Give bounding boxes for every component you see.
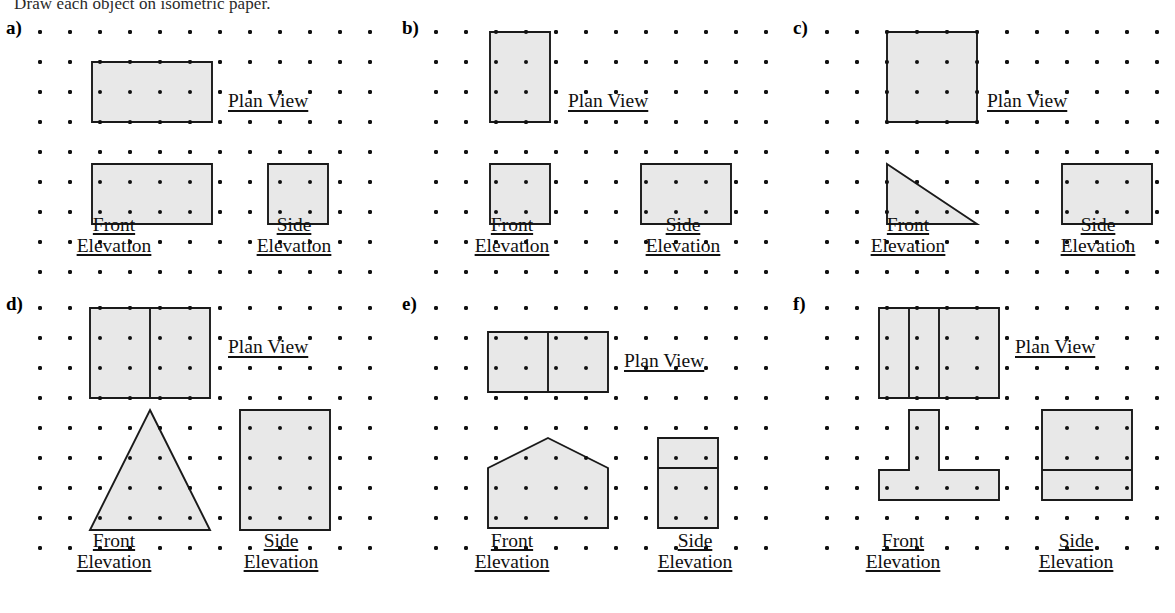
grid-dot (68, 180, 72, 184)
grid-dot (1125, 270, 1129, 274)
grid-dot (464, 366, 468, 370)
grid-dot (368, 546, 372, 550)
grid-dot (825, 120, 829, 124)
grid-dot (825, 90, 829, 94)
grid-dot (945, 180, 949, 184)
grid-dot (494, 336, 498, 340)
grid-dot (1155, 456, 1159, 460)
grid-dot (915, 30, 919, 34)
grid-dot (704, 306, 708, 310)
grid-dot (218, 456, 222, 460)
grid-dot (614, 336, 618, 340)
grid-dot (464, 426, 468, 430)
grid-dot (38, 456, 42, 460)
grid-dot (644, 180, 648, 184)
grid-dot (368, 516, 372, 520)
grid-dot (614, 120, 618, 124)
grid-dot (975, 30, 979, 34)
grid-dot (614, 486, 618, 490)
grid-dot (825, 486, 829, 490)
grid-dot (38, 336, 42, 340)
grid-dot (1065, 180, 1069, 184)
grid-dot (158, 150, 162, 154)
grid-dot (704, 456, 708, 460)
grid-dot (338, 336, 342, 340)
grid-dot (38, 210, 42, 214)
grid-dot (1065, 516, 1069, 520)
grid-dot (464, 180, 468, 184)
grid-dot (554, 426, 558, 430)
grid-dot (674, 486, 678, 490)
grid-dot (38, 546, 42, 550)
grid-dot (434, 396, 438, 400)
grid-dot (644, 426, 648, 430)
panel-drawing-d (0, 290, 391, 558)
grid-dot (308, 90, 312, 94)
grid-dot (704, 366, 708, 370)
front-elevation-label-f-line1: Front (882, 530, 924, 551)
grid-dot (1035, 396, 1039, 400)
grid-dot (434, 456, 438, 460)
grid-dot (1035, 120, 1039, 124)
grid-dot (734, 270, 738, 274)
grid-dot (855, 270, 859, 274)
grid-dot (975, 120, 979, 124)
grid-dot (128, 396, 132, 400)
grid-dot (128, 456, 132, 460)
grid-dot (945, 516, 949, 520)
grid-dot (734, 426, 738, 430)
grid-dot (368, 210, 372, 214)
grid-dot (825, 210, 829, 214)
grid-dot (915, 426, 919, 430)
grid-dot (98, 456, 102, 460)
grid-dot (915, 306, 919, 310)
grid-dot (554, 270, 558, 274)
grid-dot (704, 90, 708, 94)
grid-dot (248, 306, 252, 310)
grid-dot (644, 516, 648, 520)
grid-dot (674, 60, 678, 64)
grid-dot (915, 396, 919, 400)
exercise-panel-a: a)Plan ViewFrontElevationSideElevation (0, 14, 391, 282)
grid-dot (464, 150, 468, 154)
grid-dot (248, 366, 252, 370)
grid-dot (1155, 426, 1159, 430)
grid-dot (308, 120, 312, 124)
grid-dot (915, 486, 919, 490)
grid-dot (524, 456, 528, 460)
grid-dot (1095, 516, 1099, 520)
grid-dot (218, 336, 222, 340)
grid-dot (614, 30, 618, 34)
grid-dot (644, 60, 648, 64)
grid-dot (338, 60, 342, 64)
grid-dot (1125, 516, 1129, 520)
grid-dot (98, 426, 102, 430)
grid-dot (915, 150, 919, 154)
grid-dot (98, 306, 102, 310)
grid-dot (1035, 60, 1039, 64)
grid-dot (494, 180, 498, 184)
worksheet-instruction: Draw each object on isometric paper. (14, 0, 271, 14)
grid-dot (1095, 180, 1099, 184)
side-elevation-label-f-line1: Side (1059, 530, 1094, 551)
grid-dot (68, 150, 72, 154)
grid-dot (554, 60, 558, 64)
grid-dot (494, 516, 498, 520)
grid-dot (975, 90, 979, 94)
grid-dot (218, 210, 222, 214)
grid-dot (885, 60, 889, 64)
grid-dot (1065, 60, 1069, 64)
grid-dot (584, 180, 588, 184)
grid-dot (68, 120, 72, 124)
grid-dot (945, 60, 949, 64)
grid-dot (188, 240, 192, 244)
grid-dot (98, 180, 102, 184)
grid-dot (188, 210, 192, 214)
grid-dot (38, 150, 42, 154)
grid-dot (464, 456, 468, 460)
grid-dot (188, 270, 192, 274)
grid-dot (128, 306, 132, 310)
grid-dot (494, 396, 498, 400)
grid-dot (584, 306, 588, 310)
grid-dot (188, 396, 192, 400)
